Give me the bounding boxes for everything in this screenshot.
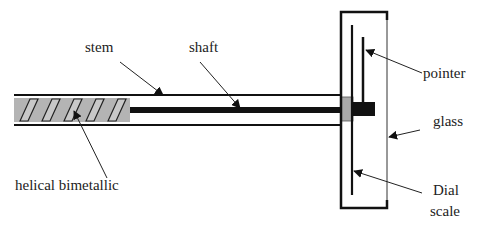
- stem-leader: [120, 62, 163, 95]
- shaft-label: shaft: [189, 39, 219, 55]
- shaft-leader: [200, 62, 240, 108]
- dial-leader: [354, 171, 422, 193]
- pointer-label: pointer: [423, 65, 466, 81]
- glass-label: glass: [433, 113, 463, 129]
- scale-label: scale: [430, 203, 460, 219]
- shaft: [130, 107, 342, 113]
- thermometer-diagram: stem shaft helical bimetallic pointer gl…: [0, 0, 478, 226]
- pointer-leader: [366, 50, 422, 73]
- glass-leader: [389, 130, 420, 137]
- helical-bimetallic-element: [14, 98, 130, 122]
- helical-bimetallic-label: helical bimetallic: [15, 177, 119, 193]
- pointer-hub: [353, 102, 375, 116]
- dial-label: Dial: [433, 182, 459, 198]
- stem-label: stem: [85, 39, 114, 55]
